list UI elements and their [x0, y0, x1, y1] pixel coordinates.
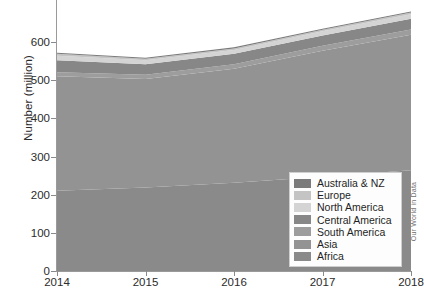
- legend-color-swatch: [294, 179, 311, 188]
- y-axis-tick-mark: [51, 233, 56, 234]
- legend-item[interactable]: Asia: [294, 238, 396, 250]
- legend-color-swatch: [294, 227, 311, 236]
- chart-legend: Australia & NZEuropeNorth AmericaCentral…: [289, 172, 402, 267]
- y-axis-tick-label: 500: [6, 74, 50, 86]
- legend-color-swatch: [294, 240, 311, 249]
- x-axis-tick-mark: [411, 271, 412, 276]
- legend-item[interactable]: South America: [294, 226, 396, 238]
- legend-item-label: North America: [317, 201, 384, 213]
- chart-page: Number (million) 0100200300400500600 Aus…: [0, 0, 424, 298]
- legend-color-swatch: [294, 252, 311, 261]
- legend-item-label: Central America: [317, 214, 392, 226]
- y-axis-tick-mark: [51, 42, 56, 43]
- legend-color-swatch: [294, 191, 311, 200]
- legend-item[interactable]: Central America: [294, 214, 396, 226]
- legend-item-label: Australia & NZ: [317, 177, 385, 189]
- legend-item[interactable]: Europe: [294, 189, 396, 201]
- y-axis-tick-label: 600: [6, 36, 50, 48]
- legend-item-label: Asia: [317, 238, 337, 250]
- legend-color-swatch: [294, 203, 311, 212]
- legend-item-label: South America: [317, 226, 385, 238]
- y-axis-tick-label: 400: [6, 112, 50, 124]
- x-axis-tick-mark: [234, 271, 235, 276]
- x-axis-tick-label: 2016: [221, 276, 247, 288]
- x-axis-tick-mark: [323, 271, 324, 276]
- y-axis-tick-mark: [51, 80, 56, 81]
- watermark-label: Our World in Data: [410, 176, 417, 248]
- x-axis-tick-label: 2018: [398, 276, 424, 288]
- y-axis-tick-mark: [51, 118, 56, 119]
- y-axis-tick-mark: [51, 195, 56, 196]
- y-axis-tick-mark: [51, 157, 56, 158]
- legend-item[interactable]: Australia & NZ: [294, 177, 396, 189]
- legend-item[interactable]: North America: [294, 201, 396, 213]
- legend-item-label: Africa: [317, 250, 344, 262]
- legend-item-label: Europe: [317, 189, 351, 201]
- x-axis-tick-label: 2014: [44, 276, 70, 288]
- x-axis-tick-mark: [57, 271, 58, 276]
- x-axis-tick-label: 2015: [133, 276, 159, 288]
- y-axis-tick-label: 200: [6, 189, 50, 201]
- y-axis-tick-group: 0100200300400500600: [0, 0, 50, 298]
- x-axis-tick-label: 2017: [310, 276, 336, 288]
- legend-item[interactable]: Africa: [294, 250, 396, 262]
- y-axis-tick-mark: [51, 271, 56, 272]
- y-axis-tick-label: 100: [6, 227, 50, 239]
- y-axis-tick-label: 300: [6, 151, 50, 163]
- legend-color-swatch: [294, 215, 311, 224]
- x-axis-tick-mark: [146, 271, 147, 276]
